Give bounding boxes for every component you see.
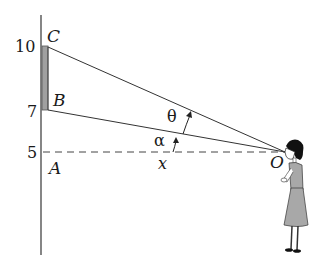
- label-point-b: B: [52, 90, 66, 110]
- torso: [289, 162, 303, 190]
- label-y-5: 5: [27, 143, 37, 162]
- theta-arc: [183, 115, 190, 134]
- screen-rectangle: [42, 46, 48, 110]
- label-point-a: A: [47, 158, 61, 178]
- diagram-canvas: 10 7 5 C B A O θ α x: [0, 0, 319, 260]
- label-point-c: C: [47, 26, 60, 46]
- label-theta: θ: [167, 107, 177, 126]
- observer-woman-figure: [281, 140, 308, 253]
- skirt: [284, 188, 308, 227]
- label-y-7: 7: [27, 102, 37, 121]
- line-c-to-o: [48, 47, 285, 152]
- alpha-arrowhead-icon: [173, 137, 179, 143]
- hands: [281, 178, 287, 182]
- label-alpha: α: [154, 131, 165, 150]
- label-y-10: 10: [15, 37, 35, 56]
- theta-arrowhead-icon: [186, 111, 192, 118]
- label-distance-x: x: [158, 154, 167, 173]
- label-point-o: O: [270, 152, 284, 172]
